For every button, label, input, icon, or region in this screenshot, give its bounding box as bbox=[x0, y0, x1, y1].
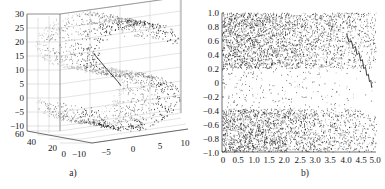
svg-text:60: 60 bbox=[15, 129, 25, 139]
svg-text:20: 20 bbox=[15, 37, 25, 47]
panel-a-svg: 30 25 20 15 10 5 0 −5 −10 60 40 20 0 −10… bbox=[0, 0, 195, 189]
svg-text:0: 0 bbox=[215, 78, 220, 88]
panel-b-scatter: 1.0 0.8 0.6 0.4 0.2 0 −0.2 −0.4 −0.6 −0.… bbox=[190, 0, 385, 189]
svg-text:2.5: 2.5 bbox=[294, 155, 306, 165]
svg-text:5: 5 bbox=[158, 141, 163, 151]
panel-b-point-cloud bbox=[222, 13, 377, 152]
svg-text:40: 40 bbox=[27, 137, 37, 147]
svg-text:4.5: 4.5 bbox=[355, 155, 367, 165]
svg-text:0.8: 0.8 bbox=[208, 22, 220, 32]
svg-text:15: 15 bbox=[15, 51, 25, 61]
svg-text:0.6: 0.6 bbox=[208, 36, 220, 46]
svg-text:0.4: 0.4 bbox=[208, 50, 220, 60]
panel-b-x-ticklabels: 0 0.5 1.0 1.5 2.0 2.5 3.0 3.5 4.0 4.5 5.… bbox=[221, 155, 381, 165]
svg-text:2.0: 2.0 bbox=[278, 155, 290, 165]
svg-text:3.5: 3.5 bbox=[324, 155, 336, 165]
svg-text:3.0: 3.0 bbox=[309, 155, 321, 165]
panel-a-caption: a) bbox=[58, 168, 88, 178]
svg-text:−0.2: −0.2 bbox=[203, 92, 219, 102]
svg-text:0.2: 0.2 bbox=[208, 64, 219, 74]
figure-container: 30 25 20 15 10 5 0 −5 −10 60 40 20 0 −10… bbox=[0, 0, 385, 189]
svg-text:−5: −5 bbox=[14, 107, 24, 117]
svg-text:4.0: 4.0 bbox=[340, 155, 352, 165]
svg-text:−5: −5 bbox=[101, 147, 111, 157]
svg-text:1.0: 1.0 bbox=[248, 155, 260, 165]
panel-b-svg: 1.0 0.8 0.6 0.4 0.2 0 −0.2 −0.4 −0.6 −0.… bbox=[190, 0, 385, 189]
panel-a-scatter3d: 30 25 20 15 10 5 0 −5 −10 60 40 20 0 −10… bbox=[0, 0, 195, 189]
svg-text:5.0: 5.0 bbox=[369, 155, 381, 165]
svg-text:−0.4: −0.4 bbox=[203, 106, 220, 116]
panel-a-geodesic-path bbox=[94, 54, 121, 85]
svg-text:0: 0 bbox=[131, 144, 136, 154]
svg-text:−0.8: −0.8 bbox=[203, 134, 220, 144]
svg-text:1.0: 1.0 bbox=[208, 8, 220, 18]
svg-text:−0.6: −0.6 bbox=[203, 120, 220, 130]
panel-a-point-cloud bbox=[36, 11, 181, 131]
svg-text:10: 10 bbox=[181, 138, 191, 148]
panel-b-y-ticklabels: 1.0 0.8 0.6 0.4 0.2 0 −0.2 −0.4 −0.6 −0.… bbox=[203, 8, 220, 158]
svg-text:25: 25 bbox=[15, 23, 25, 33]
panel-a-gridlines bbox=[27, 0, 188, 143]
svg-text:1.5: 1.5 bbox=[263, 155, 275, 165]
svg-text:−1.0: −1.0 bbox=[203, 148, 220, 158]
panel-b-caption: b) bbox=[290, 168, 320, 178]
panel-a-z-ticklabels: 30 25 20 15 10 5 0 −5 −10 bbox=[10, 9, 25, 131]
svg-text:30: 30 bbox=[15, 9, 25, 19]
svg-text:0: 0 bbox=[62, 149, 67, 159]
svg-text:0: 0 bbox=[221, 155, 226, 165]
svg-text:10: 10 bbox=[15, 65, 25, 75]
svg-text:0.5: 0.5 bbox=[232, 155, 244, 165]
svg-text:5: 5 bbox=[20, 79, 25, 89]
svg-text:20: 20 bbox=[48, 143, 58, 153]
svg-text:0: 0 bbox=[20, 93, 25, 103]
panel-a-x-ticklabels: −10 −5 0 5 10 bbox=[72, 138, 190, 159]
svg-text:−10: −10 bbox=[72, 149, 87, 159]
